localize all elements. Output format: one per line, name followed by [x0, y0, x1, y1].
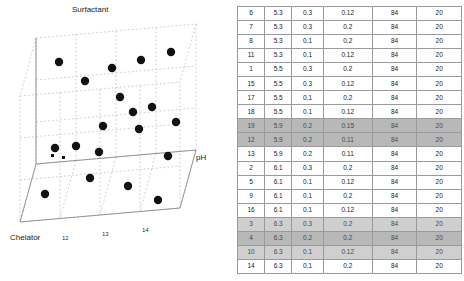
screenshot-root: Surfactant pH Chelator 12 13 14 65.30.30…: [0, 0, 464, 281]
data-points: [41, 48, 180, 204]
table-cell: 0.3: [292, 77, 324, 91]
table-row[interactable]: 125.90.20.118420: [238, 133, 462, 147]
table-cell: 0.1: [292, 203, 324, 217]
table-cell: 6.1: [265, 161, 292, 175]
table-cell: 0.3: [292, 217, 324, 231]
table-cell: 6.3: [265, 231, 292, 245]
table-cell: 0.3: [292, 7, 324, 21]
table-cell: 84: [372, 21, 417, 35]
table-cell: 0.2: [292, 133, 324, 147]
table-row[interactable]: 85.30.10.28420: [238, 35, 462, 49]
table-cell: 0.11: [323, 133, 372, 147]
table-row[interactable]: 96.10.10.28420: [238, 189, 462, 203]
table-cell: 5.9: [265, 119, 292, 133]
table-cell: 5.5: [265, 63, 292, 77]
table-cell: 19: [238, 119, 265, 133]
table-row[interactable]: 166.10.10.128420: [238, 203, 462, 217]
table-cell: 20: [417, 175, 462, 189]
table-cell: 5.3: [265, 49, 292, 63]
table-row[interactable]: 175.50.10.28420: [238, 91, 462, 105]
table-cell: 3: [238, 217, 265, 231]
table-cell: 0.1: [292, 91, 324, 105]
table-row[interactable]: 46.30.20.28420: [238, 231, 462, 245]
table-cell: 5.5: [265, 91, 292, 105]
table-cell: 0.2: [323, 63, 372, 77]
table-row[interactable]: 185.50.10.128420: [238, 105, 462, 119]
table-row[interactable]: 155.50.30.128420: [238, 77, 462, 91]
experiment-table: 65.30.30.12842075.30.30.2842085.30.10.28…: [237, 6, 462, 274]
table-cell: 84: [372, 35, 417, 49]
table-cell: 0.12: [323, 105, 372, 119]
table-cell: 20: [417, 231, 462, 245]
table-cell: 84: [372, 203, 417, 217]
table-cell: 20: [417, 161, 462, 175]
table-cell: 6.1: [265, 189, 292, 203]
table-row[interactable]: 106.30.10.128420: [238, 245, 462, 259]
scatter-3d-plot: Surfactant pH Chelator 12 13 14: [0, 0, 236, 281]
table-cell: 5.5: [265, 105, 292, 119]
table-row[interactable]: 146.30.10.28420: [238, 259, 462, 273]
table-cell: 0.12: [323, 245, 372, 259]
table-cell: 84: [372, 231, 417, 245]
table-cell: 0.3: [292, 21, 324, 35]
table-cell: 84: [372, 63, 417, 77]
floor-marks: [51, 154, 65, 159]
table-cell: 6: [238, 7, 265, 21]
table-cell: 84: [372, 245, 417, 259]
table-cell: 1: [238, 63, 265, 77]
table-cell: 0.1: [292, 49, 324, 63]
table-cell: 20: [417, 105, 462, 119]
table-cell: 0.2: [323, 21, 372, 35]
table-cell: 20: [417, 217, 462, 231]
table-cell: 5.9: [265, 133, 292, 147]
table-cell: 84: [372, 161, 417, 175]
table-cell: 0.2: [292, 147, 324, 161]
table-cell: 84: [372, 77, 417, 91]
table-cell: 9: [238, 189, 265, 203]
table-row[interactable]: 15.50.30.28420: [238, 63, 462, 77]
table-row[interactable]: 195.90.20.158420: [238, 119, 462, 133]
table-cell: 0.2: [323, 91, 372, 105]
table-cell: 6.1: [265, 203, 292, 217]
table-cell: 5.9: [265, 147, 292, 161]
table-cell: 20: [417, 49, 462, 63]
table-cell: 20: [417, 77, 462, 91]
plot-svg: [0, 0, 236, 281]
table-row[interactable]: 75.30.30.28420: [238, 21, 462, 35]
table-cell: 11: [238, 49, 265, 63]
table-cell: 84: [372, 133, 417, 147]
table-row[interactable]: 135.90.20.118420: [238, 147, 462, 161]
table-cell: 5.3: [265, 35, 292, 49]
table-cell: 0.11: [323, 147, 372, 161]
table-cell: 20: [417, 119, 462, 133]
table-cell: 84: [372, 175, 417, 189]
table-cell: 6.3: [265, 217, 292, 231]
table-cell: 20: [417, 147, 462, 161]
table-body: 65.30.30.12842075.30.30.2842085.30.10.28…: [238, 7, 462, 274]
table-cell: 20: [417, 133, 462, 147]
table-cell: 14: [238, 259, 265, 273]
table-cell: 84: [372, 91, 417, 105]
table-cell: 20: [417, 21, 462, 35]
table-row[interactable]: 56.10.10.128420: [238, 175, 462, 189]
table-cell: 6.3: [265, 245, 292, 259]
table-cell: 0.2: [292, 231, 324, 245]
table-cell: 6.1: [265, 175, 292, 189]
table-cell: 84: [372, 119, 417, 133]
table-cell: 7: [238, 21, 265, 35]
table-cell: 0.3: [292, 63, 324, 77]
table-cell: 13: [238, 147, 265, 161]
table-cell: 0.1: [292, 105, 324, 119]
table-cell: 5: [238, 175, 265, 189]
table-row[interactable]: 115.30.10.128420: [238, 49, 462, 63]
table-cell: 0.1: [292, 259, 324, 273]
table-cell: 0.12: [323, 77, 372, 91]
table-row[interactable]: 26.10.30.28420: [238, 161, 462, 175]
table-cell: 20: [417, 203, 462, 217]
table-row[interactable]: 65.30.30.128420: [238, 7, 462, 21]
table-row[interactable]: 36.30.30.28420: [238, 217, 462, 231]
table-cell: 20: [417, 63, 462, 77]
table-cell: 0.2: [323, 189, 372, 203]
table-cell: 0.3: [292, 161, 324, 175]
table-cell: 12: [238, 133, 265, 147]
